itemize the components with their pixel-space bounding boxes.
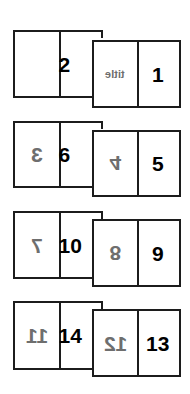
page-number: 3 <box>31 144 43 165</box>
front-right-page: 1 <box>137 42 180 106</box>
back-left-page: 7 <box>15 213 61 277</box>
sheet-3-front: 8 9 <box>92 219 181 287</box>
front-left-page: 8 <box>94 221 139 285</box>
sheet-4-back: 11 14 <box>13 301 102 370</box>
page-number: 8 <box>109 243 121 264</box>
page-number: 13 <box>146 333 169 354</box>
front-left-page: 12 <box>94 311 139 375</box>
sheet-1-back: 2 <box>13 30 102 98</box>
page-number: 12 <box>104 333 127 354</box>
page-number: 6 <box>59 144 71 165</box>
back-left-page: 11 <box>15 303 61 368</box>
front-right-page: 5 <box>137 132 180 195</box>
page-number: 4 <box>109 153 121 174</box>
sheet-4-front: 12 13 <box>92 309 181 377</box>
sheet-2-front: 4 5 <box>92 130 181 197</box>
page-number: 5 <box>152 153 164 174</box>
page-number: 11 <box>26 325 48 346</box>
title-label: title <box>105 69 125 80</box>
front-left-page: 4 <box>94 132 139 195</box>
sheet-2-back: 3 6 <box>13 121 102 188</box>
page-number: 9 <box>152 243 164 264</box>
page-number: 2 <box>59 54 71 75</box>
sheet-1-front: title 1 <box>92 40 181 108</box>
page-number: 14 <box>59 325 82 346</box>
front-right-page: 9 <box>137 221 180 285</box>
sheet-3-back: 7 10 <box>13 211 102 279</box>
page-number: 10 <box>59 235 82 256</box>
front-left-page: title <box>94 42 139 106</box>
front-right-page: 13 <box>137 311 180 375</box>
page-number: 7 <box>31 235 43 256</box>
page-number: 1 <box>152 64 164 85</box>
